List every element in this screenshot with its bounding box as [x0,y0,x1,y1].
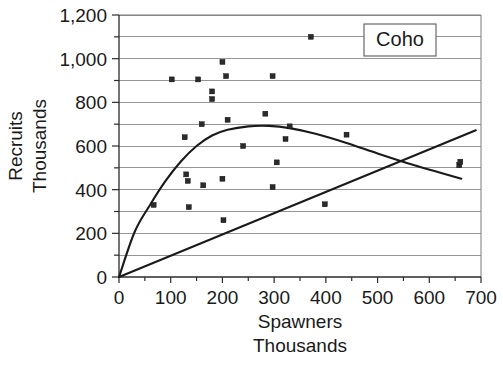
legend-label: Coho [376,28,424,50]
y-tick-label: 1,000 [59,49,107,70]
data-point-marker [186,205,191,210]
x-tick-label: 300 [258,287,290,308]
data-point-marker [241,144,246,149]
y-tick-label: 1,200 [59,5,107,26]
data-point-marker [224,74,229,79]
x-axis-tick-labels: 0100200300400500600700 [114,287,497,308]
data-point-marker [287,124,292,129]
data-point-marker [201,183,206,188]
y-tick-label: 600 [75,136,107,157]
x-tick-label: 0 [114,287,125,308]
y-axis-title-line1: Recruits [5,111,26,181]
data-point-marker [270,74,275,79]
data-point-marker [344,132,349,137]
data-point-marker [185,178,190,183]
data-point-marker [221,218,226,223]
y-tick-label: 0 [96,267,107,288]
data-point-marker [274,160,279,165]
data-point-group [151,34,463,222]
x-tick-label: 100 [155,287,187,308]
data-point-marker [322,202,327,207]
data-point-marker [458,159,463,164]
data-point-marker [225,117,230,122]
data-point-marker [184,172,189,177]
x-tick-label: 400 [310,287,342,308]
data-point-marker [270,185,275,190]
data-point-marker [283,137,288,142]
data-point-marker [210,97,215,102]
y-axis-tick-labels: 02004006008001,0001,200 [59,5,107,288]
x-axis-tick-group [119,277,481,283]
data-point-marker [263,111,268,116]
x-tick-label: 200 [207,287,239,308]
y-axis-tick-group [112,15,119,277]
y-tick-label: 200 [75,223,107,244]
data-point-marker [308,34,313,39]
data-point-marker [182,135,187,140]
x-tick-label: 500 [362,287,394,308]
y-axis-title-line2: Thousands [29,99,50,193]
x-axis-title-line2: Thousands [253,335,347,356]
y-axis-title: Recruits Thousands [5,99,50,193]
y-tick-label: 400 [75,180,107,201]
data-point-marker [196,77,201,82]
stock-recruitment-fit-curve [119,126,461,277]
trend-curve-group [119,126,476,277]
data-point-marker [151,202,156,207]
chart-figure: 0100200300400500600700 02004006008001,00… [0,0,503,365]
data-point-marker [210,89,215,94]
scatter-plot-canvas: 0100200300400500600700 02004006008001,00… [0,0,503,365]
data-point-marker [199,122,204,127]
x-axis-title: Spawners Thousands [253,311,347,356]
x-tick-label: 600 [413,287,445,308]
y-tick-label: 800 [75,92,107,113]
legend-container: Coho [364,24,436,56]
data-point-marker [220,176,225,181]
x-tick-label: 700 [465,287,497,308]
data-point-marker [220,59,225,64]
x-axis-title-line1: Spawners [258,311,343,332]
data-point-marker [169,77,174,82]
